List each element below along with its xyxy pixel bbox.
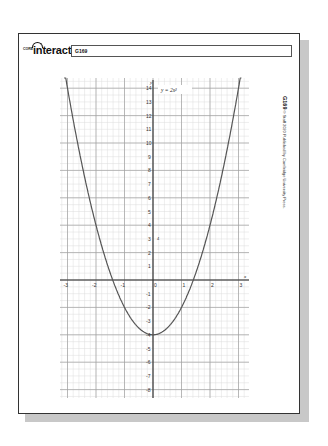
y-tick-label: 11 xyxy=(146,126,151,132)
y-tick-label: 6 xyxy=(148,195,151,201)
y-tick-label: 2 xyxy=(148,250,151,256)
x-tick-label: 2 xyxy=(211,282,214,288)
y-tick-label: 12 xyxy=(146,113,152,119)
y-tick-label: -8 xyxy=(146,387,151,393)
y-tick-label: -1 xyxy=(146,291,151,297)
y-tick-label: -5 xyxy=(146,346,151,352)
y-tick-label: 7 xyxy=(148,181,151,187)
y-tick-label: -7 xyxy=(146,373,151,379)
y-tick-label: -2 xyxy=(146,304,151,310)
y-tick-label: -6 xyxy=(146,359,151,365)
x-tick-label: -3 xyxy=(64,282,69,288)
x-tick-label: 1 xyxy=(183,282,186,288)
y-axis-label: y xyxy=(149,80,153,85)
x-tick-label: -2 xyxy=(92,282,97,288)
y-tick-label: -3 xyxy=(146,318,151,324)
parabola-graph: -3-2-101231413121110987654321-1-2-3-4-5-… xyxy=(0,0,328,446)
y-tick-label: 4 xyxy=(148,222,151,228)
x-tick-label: 3 xyxy=(240,282,243,288)
y-tick-label: 5 xyxy=(148,209,151,215)
y-tick-label: -4 xyxy=(146,332,151,338)
equation-label: y = 2x² xyxy=(160,87,177,93)
x-tick-label: 0 xyxy=(154,282,157,288)
y-tick-label: 13 xyxy=(146,99,152,105)
y-tick-label: 3 xyxy=(148,236,151,242)
y-tick-label: 10 xyxy=(146,140,152,146)
y-tick-label: 9 xyxy=(148,154,151,160)
x-axis-label: x xyxy=(243,274,247,279)
y-tick-label: 8 xyxy=(148,167,151,173)
point-label: 4 xyxy=(157,236,160,241)
x-tick-label: -1 xyxy=(121,282,126,288)
y-tick-label: 14 xyxy=(146,85,152,91)
y-tick-label: 1 xyxy=(148,263,151,269)
